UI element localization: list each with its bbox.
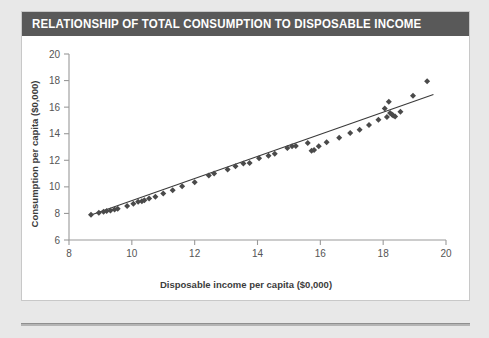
- data-point-marker: [160, 191, 166, 197]
- y-tick-label: 16: [49, 102, 61, 113]
- data-point-marker: [336, 135, 342, 141]
- y-tick-label: 20: [49, 49, 61, 60]
- data-point-marker: [424, 78, 430, 84]
- data-point-marker: [324, 139, 330, 145]
- data-point-marker: [247, 160, 253, 166]
- axis-lines: [69, 54, 446, 240]
- data-point-marker: [240, 161, 246, 167]
- y-tick-label: 12: [49, 155, 61, 166]
- data-point-marker: [170, 187, 176, 193]
- x-axis-tick-labels: 8101214161820: [66, 248, 452, 259]
- y-tick-label: 10: [49, 181, 61, 192]
- x-tick-label: 8: [66, 248, 72, 259]
- regression-line: [91, 95, 433, 216]
- y-tick-label: 8: [54, 208, 60, 219]
- x-tick-label: 14: [252, 248, 264, 259]
- data-point-marker: [366, 122, 372, 128]
- data-point-marker: [386, 99, 392, 105]
- chart-tick-marks: [64, 54, 446, 245]
- data-point-marker: [305, 140, 311, 146]
- data-point-marker: [410, 93, 416, 99]
- data-point-marker: [397, 109, 403, 115]
- chart-card: RELATIONSHIP OF TOTAL CONSUMPTION TO DIS…: [21, 11, 470, 301]
- chart-title-bar: RELATIONSHIP OF TOTAL CONSUMPTION TO DIS…: [22, 12, 469, 36]
- footer-divider: [21, 323, 470, 326]
- data-point-marker: [375, 117, 381, 123]
- x-tick-label: 18: [378, 248, 390, 259]
- x-tick-label: 10: [126, 248, 138, 259]
- data-point-marker: [233, 163, 239, 169]
- data-point-marker: [347, 130, 353, 136]
- data-point-marker: [192, 179, 198, 185]
- y-tick-label: 18: [49, 75, 61, 86]
- data-point-marker: [88, 212, 94, 218]
- x-tick-label: 12: [189, 248, 201, 259]
- y-tick-label: 14: [49, 128, 61, 139]
- page-title: RELATIONSHIP OF TOTAL CONSUMPTION TO DIS…: [32, 12, 421, 36]
- data-point-marker: [96, 210, 102, 216]
- y-tick-label: 6: [54, 235, 60, 246]
- x-tick-label: 16: [315, 248, 327, 259]
- chart-axes: [69, 54, 446, 240]
- plot-area: 8101214161820 68101214161820 Disposable …: [22, 36, 469, 302]
- data-point-marker: [206, 173, 212, 179]
- data-point-marker: [357, 127, 363, 133]
- data-points: [88, 78, 430, 218]
- scatter-chart: 8101214161820 68101214161820 Disposable …: [22, 36, 469, 300]
- x-tick-label: 20: [440, 248, 452, 259]
- y-axis-tick-labels: 68101214161820: [49, 49, 61, 246]
- x-axis-title: Disposable income per capita ($0,000): [160, 279, 332, 290]
- trend-line: [91, 95, 433, 216]
- data-point-marker: [124, 203, 130, 209]
- data-point-marker: [146, 196, 152, 202]
- y-axis-title: Consumption per capita ($0,000): [29, 81, 40, 228]
- page-background: RELATIONSHIP OF TOTAL CONSUMPTION TO DIS…: [0, 0, 489, 338]
- data-point-marker: [316, 143, 322, 149]
- data-point-marker: [152, 194, 158, 200]
